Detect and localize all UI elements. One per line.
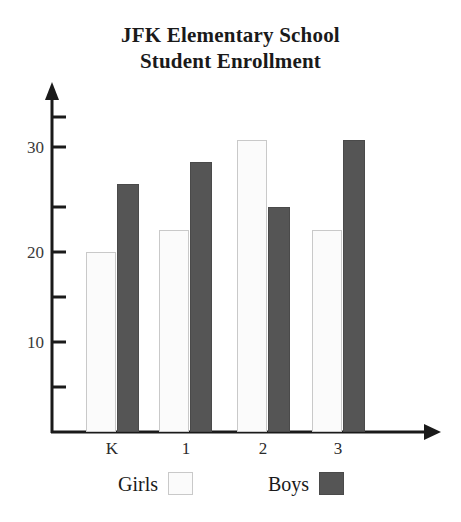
y-tick-label-10: 10 — [10, 334, 44, 351]
bar-girls-2 — [237, 140, 267, 432]
bar-boys-2 — [268, 207, 290, 432]
bar-boys-1 — [190, 162, 212, 432]
legend-swatch-girls-icon — [168, 472, 193, 495]
y-tick-label-30: 30 — [10, 139, 44, 156]
legend-label-girls: Girls — [118, 473, 158, 495]
bar-boys-3 — [343, 140, 365, 432]
x-tick-label-k: K — [82, 440, 142, 458]
bar-girls-k — [86, 252, 116, 432]
x-tick-label-2: 2 — [233, 440, 293, 458]
y-tick-label-20: 20 — [10, 244, 44, 261]
chart-legend: Girls Boys — [0, 468, 461, 512]
legend-swatch-boys-icon — [319, 472, 344, 495]
axes-svg — [0, 0, 461, 460]
legend-entry-boys: Boys — [268, 472, 344, 495]
x-tick-label-3: 3 — [308, 440, 368, 458]
bar-girls-3 — [312, 230, 342, 432]
legend-label-boys: Boys — [268, 473, 309, 495]
legend-entry-girls: Girls — [118, 472, 193, 495]
y-axis-ticks — [52, 117, 66, 387]
plot-area: 30 20 10 K 1 2 3 — [0, 0, 461, 460]
bar-chart: JFK Elementary School Student Enrollment — [0, 0, 461, 522]
bar-girls-1 — [159, 230, 189, 432]
x-tick-label-1: 1 — [156, 440, 216, 458]
bar-boys-k — [117, 184, 139, 432]
y-axis — [45, 82, 59, 433]
